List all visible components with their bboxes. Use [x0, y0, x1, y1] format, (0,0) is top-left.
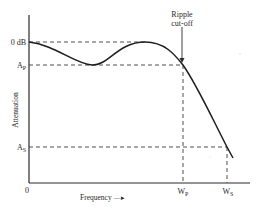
y-tick-ap: AP	[17, 61, 27, 71]
annotation-line2: cut-off	[171, 19, 193, 28]
x-tick-ws: WS	[223, 187, 234, 197]
attenuation-curve	[29, 42, 233, 158]
y-axis-label: Attenuation	[11, 92, 20, 128]
scan-speck	[210, 157, 211, 158]
origin-label: 0	[25, 186, 29, 195]
y-tick-as: AS	[17, 143, 26, 153]
y-tick-zero-db: 0 dB	[11, 38, 26, 47]
y-tick-ap-sub: P	[23, 65, 27, 71]
x-tick-wp-sub: P	[185, 191, 189, 197]
attenuation-diagram: Ripple cut-off 0 dB AP AS Attenuation 0 …	[0, 0, 263, 208]
annotation-line1: Ripple	[171, 10, 193, 19]
x-axis-label-text: Frequency	[80, 193, 112, 202]
x-tick-ws-sub: S	[230, 191, 233, 197]
y-tick-as-sub: S	[23, 147, 26, 153]
x-tick-wp: WP	[178, 187, 190, 197]
scan-speck	[239, 53, 240, 54]
x-axis-arrow-icon: —►	[113, 195, 126, 201]
x-axis-label: Frequency—►	[80, 193, 126, 202]
